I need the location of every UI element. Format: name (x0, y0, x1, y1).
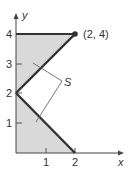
y-tick-label-1: 1 (6, 117, 12, 129)
y-tick-label-4: 4 (6, 28, 12, 40)
x-tick-label-2: 2 (72, 156, 78, 168)
y-tick-label-2: 2 (6, 87, 12, 99)
y-tick-label-3: 3 (6, 58, 12, 70)
point-marker (72, 31, 78, 37)
x-axis-label: x (117, 156, 124, 168)
x-tick-label-1: 1 (43, 156, 49, 168)
x-axis-arrow-icon (118, 151, 124, 156)
region-diagram: y x 1 2 1 2 3 4 (2, 4) S (0, 0, 130, 169)
s-leader-lower (36, 81, 62, 122)
point-label: (2, 4) (83, 28, 109, 40)
y-axis-label: y (21, 9, 29, 21)
region-label-s: S (64, 76, 72, 88)
y-axis-arrow-icon (14, 13, 19, 19)
